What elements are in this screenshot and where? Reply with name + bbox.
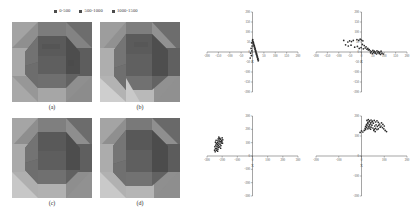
legend-swatch-icon <box>79 10 82 13</box>
svg-text:-100: -100 <box>353 70 359 74</box>
legend: 0-500 500-1000 1000-1500 <box>0 5 192 17</box>
legend-entry-0: 0-500 <box>54 9 70 14</box>
svg-text:-200: -200 <box>353 90 359 94</box>
svg-text:200: 200 <box>296 54 301 58</box>
svg-text:0: 0 <box>361 54 363 58</box>
svg-text:150: 150 <box>354 20 359 24</box>
svg-text:0: 0 <box>361 158 363 162</box>
legend-entry-1: 500-1000 <box>79 9 102 14</box>
svg-text:-100: -100 <box>353 174 359 178</box>
svg-text:200: 200 <box>245 127 250 131</box>
svg-text:200: 200 <box>405 158 410 162</box>
panel-a: (a) <box>12 22 92 102</box>
svg-text:150: 150 <box>245 20 250 24</box>
svg-text:-200: -200 <box>244 90 250 94</box>
svg-text:-150: -150 <box>244 80 250 84</box>
legend-swatch-icon <box>112 10 115 13</box>
svg-text:200: 200 <box>281 158 286 162</box>
svg-text:-50: -50 <box>246 60 251 64</box>
scatter-top-left: -200-150-100-50050100150200-200-150-100-… <box>194 6 304 112</box>
svg-text:X: X <box>360 60 363 64</box>
panel-d: (d) <box>100 118 180 198</box>
svg-text:-50: -50 <box>348 54 353 58</box>
svg-text:100: 100 <box>273 54 278 58</box>
svg-text:-200: -200 <box>313 158 319 162</box>
figure-root: 0-500 500-1000 1000-1500 <box>0 0 415 219</box>
svg-text:-150: -150 <box>325 54 331 58</box>
svg-text:100: 100 <box>382 158 387 162</box>
legend-entry-2: 1000-1500 <box>112 9 138 14</box>
svg-text:50: 50 <box>371 54 375 58</box>
panel-caption: (d) <box>100 200 180 206</box>
svg-text:100: 100 <box>354 134 359 138</box>
svg-text:100: 100 <box>245 141 250 145</box>
panel-grid: (a) <box>0 18 192 216</box>
svg-text:0: 0 <box>252 158 254 162</box>
legend-swatch-icon <box>54 10 57 13</box>
svg-text:-200: -200 <box>313 54 319 58</box>
svg-text:-100: -100 <box>336 158 342 162</box>
svg-text:X: X <box>251 164 254 168</box>
panel-caption: (c) <box>12 200 92 206</box>
faceted-solid-image-c <box>12 118 92 198</box>
svg-text:-300: -300 <box>244 194 250 198</box>
svg-text:-200: -200 <box>219 158 225 162</box>
legend-label: 500-1000 <box>84 9 102 14</box>
svg-text:-100: -100 <box>336 54 342 58</box>
svg-text:X: X <box>251 60 254 64</box>
panel-caption: (a) <box>12 104 92 110</box>
svg-text:-100: -100 <box>244 167 250 171</box>
svg-text:-200: -200 <box>353 194 359 198</box>
svg-text:X: X <box>360 164 363 168</box>
svg-text:50: 50 <box>247 40 251 44</box>
faceted-panels-block: 0-500 500-1000 1000-1500 <box>0 0 192 219</box>
svg-text:-200: -200 <box>204 54 210 58</box>
svg-text:150: 150 <box>284 54 289 58</box>
legend-label: 0-500 <box>59 9 70 14</box>
svg-text:-150: -150 <box>216 54 222 58</box>
svg-text:-200: -200 <box>244 181 250 185</box>
svg-text:300: 300 <box>245 114 250 118</box>
svg-text:-150: -150 <box>353 80 359 84</box>
faceted-solid-image-d <box>100 118 180 198</box>
legend-label: 1000-1500 <box>117 9 138 14</box>
svg-text:-100: -100 <box>227 54 233 58</box>
svg-text:200: 200 <box>245 10 250 14</box>
scatter-plots-block: -200-150-100-50050100150200-200-150-100-… <box>194 4 415 219</box>
svg-text:50: 50 <box>262 54 266 58</box>
scatter-bottom-left: -300-200-1000100200300-300-200-100010020… <box>194 110 304 216</box>
svg-text:-50: -50 <box>239 54 244 58</box>
svg-text:100: 100 <box>382 54 387 58</box>
faceted-solid-image-b <box>100 22 180 102</box>
scatter-top-right: -200-150-100-50050100150200-200-150-100-… <box>303 6 413 112</box>
panel-b: (b) <box>100 22 180 102</box>
faceted-solid-image-a <box>12 22 92 102</box>
svg-text:200: 200 <box>354 10 359 14</box>
svg-text:200: 200 <box>354 114 359 118</box>
svg-text:0: 0 <box>252 54 254 58</box>
scatter-bottom-right: -200-1000100200-200-1000100200X <box>303 110 413 216</box>
svg-text:-300: -300 <box>204 158 210 162</box>
svg-text:100: 100 <box>265 158 270 162</box>
svg-text:300: 300 <box>296 158 301 162</box>
svg-text:150: 150 <box>393 54 398 58</box>
svg-text:100: 100 <box>245 30 250 34</box>
svg-text:200: 200 <box>405 54 410 58</box>
svg-text:100: 100 <box>354 30 359 34</box>
svg-text:-50: -50 <box>355 60 360 64</box>
panel-caption: (b) <box>100 104 180 110</box>
svg-text:-100: -100 <box>244 70 250 74</box>
svg-text:-100: -100 <box>234 158 240 162</box>
panel-c: (c) <box>12 118 92 198</box>
